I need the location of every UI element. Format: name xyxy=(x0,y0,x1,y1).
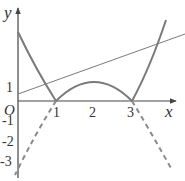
abs-quadratic-curve xyxy=(18,20,166,101)
y-tick-neg3: -3 xyxy=(0,154,12,169)
x-tick-3: 3 xyxy=(127,105,134,120)
x-axis-label: x xyxy=(164,102,173,121)
y-tick-neg1: -1 xyxy=(2,113,14,128)
straight-line xyxy=(18,34,185,94)
y-tick-neg2: -2 xyxy=(2,134,14,149)
y-axis-label: y xyxy=(2,3,12,22)
x-tick-2: 2 xyxy=(89,105,96,120)
dashed-left-branch xyxy=(15,101,56,175)
x-tick-1: 1 xyxy=(53,105,60,120)
y-tick-1: 1 xyxy=(6,80,13,95)
graph-canvas: y x O 1 2 3 1 -1 -2 -3 xyxy=(0,0,185,181)
